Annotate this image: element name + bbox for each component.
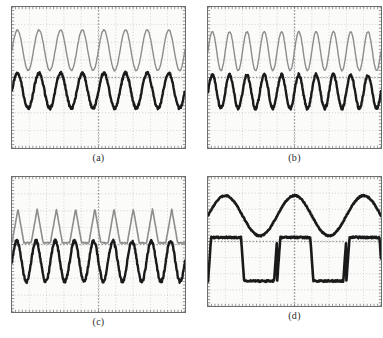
panel-caption-c: (c)	[11, 316, 186, 327]
scope-svg-b	[208, 7, 381, 148]
panel-caption-b: (b)	[207, 152, 382, 163]
oscilloscope-screen-c	[11, 176, 186, 313]
figure-panel-grid: (a) (b) (c) (d)	[0, 0, 383, 338]
panel-caption-d: (d)	[207, 310, 382, 321]
scope-svg-a	[12, 7, 185, 148]
oscilloscope-screen-b	[207, 6, 382, 149]
oscilloscope-screen-d	[207, 176, 382, 307]
oscilloscope-screen-a	[11, 6, 186, 149]
scope-svg-c	[12, 177, 185, 312]
scope-svg-d	[208, 177, 381, 306]
panel-caption-a: (a)	[11, 152, 186, 163]
